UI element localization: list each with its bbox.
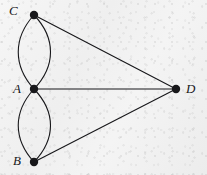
- edge-A-B-right: [34, 89, 51, 162]
- vertex-label-B: B: [13, 154, 21, 167]
- edge-layer: [18, 15, 176, 162]
- edge-C-D: [34, 15, 176, 89]
- graph-figure: C A B D: [0, 0, 207, 175]
- edge-C-A-left: [18, 15, 34, 89]
- vertex-B: [30, 158, 38, 166]
- vertex-C: [30, 11, 38, 19]
- vertex-label-D: D: [186, 82, 195, 95]
- edge-B-D: [34, 89, 176, 162]
- vertex-A: [30, 85, 38, 93]
- edge-C-A-right: [34, 15, 51, 89]
- edge-A-B-left: [18, 89, 34, 162]
- vertex-D: [172, 85, 180, 93]
- vertex-label-A: A: [13, 82, 21, 95]
- graph-canvas: [0, 0, 207, 175]
- vertex-label-C: C: [9, 4, 18, 17]
